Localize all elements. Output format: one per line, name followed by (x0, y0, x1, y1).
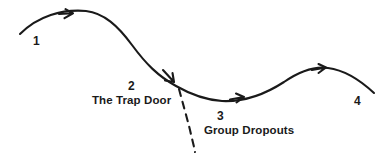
dropout-dashed-path (179, 89, 195, 152)
main-curve-group (20, 11, 374, 101)
stage-4-number: 4 (354, 95, 361, 107)
dropout-branch-group (179, 89, 195, 152)
arrowhead-2 (163, 70, 174, 82)
diagram-canvas: 1 2 The Trap Door 3 Group Dropouts 4 (0, 0, 390, 155)
stage-2-number: 2 (128, 80, 135, 92)
curve-diagram-svg (0, 0, 390, 155)
main-curve-path (20, 11, 374, 101)
stage-2-caption-trap-door: The Trap Door (92, 95, 171, 107)
stage-3-caption-group-dropouts: Group Dropouts (204, 125, 294, 137)
stage-1-number: 1 (33, 35, 40, 47)
stage-3-number: 3 (217, 110, 224, 122)
